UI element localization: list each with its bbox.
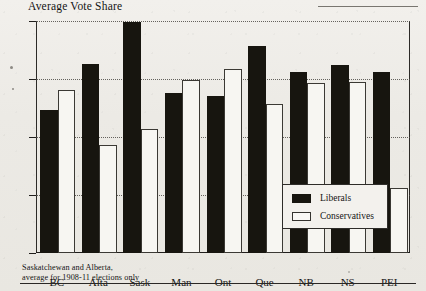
bar-liberals-sask	[123, 22, 141, 253]
x-tick-label-ns: NS	[341, 276, 355, 288]
bar-conservatives-sask	[141, 129, 159, 253]
legend-label-conservatives: Conservatives	[320, 211, 374, 221]
footnote-line-2: average for 1908-11 elections only	[22, 273, 139, 283]
legend-swatch-conservatives-icon	[292, 212, 311, 221]
bar-conservatives-que	[266, 104, 284, 253]
bar-conservatives-pei	[390, 188, 408, 253]
chart-title: Average Vote Share	[28, 0, 122, 12]
page-rule-bottom	[20, 283, 416, 284]
x-tick-label-que: Que	[255, 276, 273, 288]
bar-conservatives-alta	[99, 145, 117, 253]
bar-conservatives-man	[182, 80, 200, 253]
legend-label-liberals: Liberals	[320, 193, 351, 203]
legend-item-liberals: Liberals	[292, 193, 351, 203]
bar-liberals-alta	[82, 64, 100, 253]
x-tick-label-ont: Ont	[215, 276, 232, 288]
bar-conservatives-bc	[58, 90, 76, 253]
chart-legend: Liberals Conservatives	[282, 184, 388, 229]
legend-item-conservatives: Conservatives	[292, 211, 374, 221]
y-tick-mark	[29, 21, 36, 22]
chart-footnote: Saskatchewan and Alberta, average for 19…	[22, 263, 139, 282]
x-tick-label-nb: NB	[298, 276, 313, 288]
scan-speck	[348, 271, 350, 273]
bar-liberals-man	[165, 93, 183, 253]
x-tick-label-pei: PEI	[381, 276, 398, 288]
y-tick-mark	[29, 137, 36, 138]
footnote-line-1: Saskatchewan and Alberta,	[22, 263, 139, 273]
scan-speck	[10, 66, 13, 69]
scan-speck	[12, 88, 14, 90]
page-rule-top	[318, 6, 418, 7]
x-tick-label-man: Man	[171, 276, 191, 288]
bar-conservatives-ont	[224, 69, 242, 253]
bar-liberals-ont	[207, 96, 225, 253]
bar-liberals-bc	[40, 110, 58, 253]
y-tick-mark	[29, 79, 36, 80]
chart-page: Average Vote Share 2030405060 BCAltaSask…	[0, 0, 426, 291]
gridline	[36, 21, 410, 22]
bar-liberals-que	[248, 46, 266, 253]
y-tick-mark	[29, 253, 36, 254]
legend-swatch-liberals-icon	[292, 194, 311, 203]
y-tick-mark	[29, 195, 36, 196]
